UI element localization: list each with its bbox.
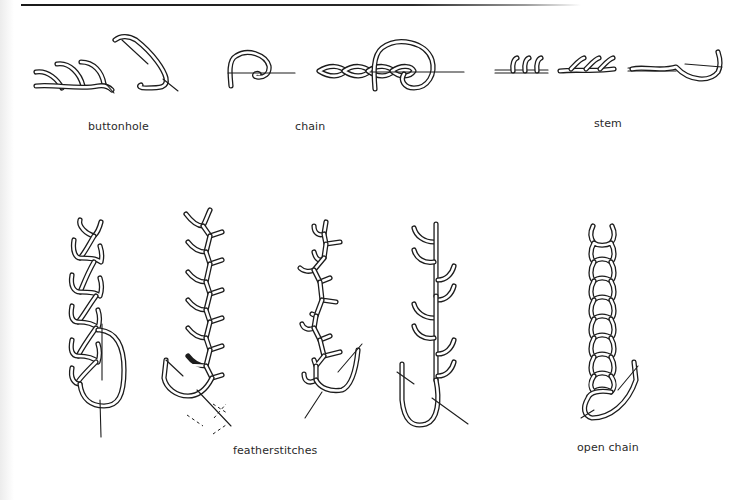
stem-group-3 [628,52,722,79]
chain-links [319,66,414,75]
featherstitch-4 [397,224,468,425]
buttonhole-stitches [36,62,114,93]
caption-chain: chain [295,120,325,133]
chain-illustration [228,42,464,89]
featherstitch-2 [164,210,231,434]
featherstitch-1 [71,220,124,437]
caption-open-chain: open chain [577,441,639,454]
buttonhole-illustration [36,37,178,93]
caption-stem: stem [594,117,622,130]
stitch-illustrations [0,0,752,500]
featherstitch-3 [300,222,362,418]
caption-featherstitches: featherstitches [233,444,317,457]
chain-first-loop [228,53,295,86]
stem-group-1 [495,58,548,73]
caption-buttonhole: buttonhole [88,120,149,133]
open-chain-illustration [581,226,638,418]
open-chain-rungs [591,243,614,392]
stem-illustration [495,52,722,79]
stem-group-2 [560,58,614,71]
buttonhole-needle-loop [115,37,178,91]
